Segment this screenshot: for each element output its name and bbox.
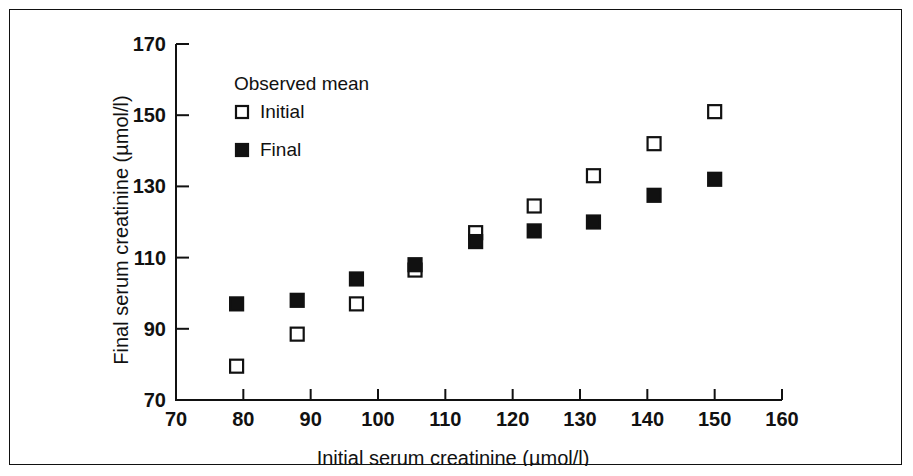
figure-frame: 708090100110120130140150160 709011013015… xyxy=(9,9,902,465)
x-axis-title: Initial serum creatinine (µmol/l) xyxy=(317,447,590,466)
x-axis-tick-labels: 708090100110120130140150160 xyxy=(165,408,799,430)
data-point-final xyxy=(648,189,661,202)
y-tick-label: 150 xyxy=(133,104,166,126)
data-point-final xyxy=(409,258,422,271)
y-tick-label: 70 xyxy=(144,389,166,411)
legend-swatch-initial xyxy=(236,106,248,118)
y-tick-label: 130 xyxy=(133,175,166,197)
y-axis-ticks xyxy=(176,44,189,400)
chart-axes xyxy=(176,44,782,400)
data-point-final xyxy=(528,224,541,237)
legend-swatch-final xyxy=(236,144,248,156)
y-axis-title: Final serum creatinine (µmol/l) xyxy=(110,95,132,364)
data-point-initial xyxy=(230,360,243,373)
x-tick-label: 120 xyxy=(496,408,529,430)
x-tick-label: 110 xyxy=(429,408,461,430)
legend-label-initial: Initial xyxy=(260,101,304,122)
data-point-initial xyxy=(708,105,721,118)
scatter-chart-svg: 708090100110120130140150160 709011013015… xyxy=(10,10,903,466)
x-tick-label: 90 xyxy=(300,408,322,430)
data-point-final xyxy=(230,297,243,310)
x-tick-label: 80 xyxy=(232,408,254,430)
y-tick-label: 90 xyxy=(144,318,166,340)
data-point-final xyxy=(350,272,363,285)
x-tick-label: 140 xyxy=(631,408,664,430)
data-point-initial xyxy=(648,137,661,150)
data-point-initial xyxy=(587,169,600,182)
data-point-final xyxy=(469,235,482,248)
x-tick-label: 150 xyxy=(698,408,731,430)
data-point-initial xyxy=(291,328,304,341)
legend-label-final: Final xyxy=(260,139,301,160)
y-axis-tick-labels: 7090110130150170 xyxy=(133,33,166,411)
x-tick-label: 160 xyxy=(765,408,798,430)
series-final-markers xyxy=(230,173,721,311)
data-point-final xyxy=(708,173,721,186)
x-tick-label: 100 xyxy=(361,408,394,430)
x-tick-label: 70 xyxy=(165,408,187,430)
data-point-initial xyxy=(528,199,541,212)
x-axis-ticks xyxy=(176,389,782,400)
data-point-final xyxy=(587,216,600,229)
chart-legend: Observed mean Initial Final xyxy=(234,73,369,160)
y-tick-label: 170 xyxy=(133,33,166,55)
legend-title: Observed mean xyxy=(234,73,369,94)
chart-plot-area: 708090100110120130140150160 709011013015… xyxy=(10,10,903,466)
y-tick-label: 110 xyxy=(134,247,166,269)
data-point-initial xyxy=(350,297,363,310)
x-tick-label: 130 xyxy=(563,408,596,430)
data-point-final xyxy=(291,294,304,307)
